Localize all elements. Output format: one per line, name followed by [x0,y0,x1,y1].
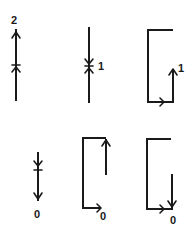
label-0: 0 [100,210,106,222]
diagram-canvas: 2 1 1 0 0 0 [0,0,191,231]
loop-path [148,30,173,102]
panel-bottom-middle: 0 [83,138,110,222]
panel-top-right: 1 [148,30,184,106]
label-0: 0 [34,208,40,220]
panel-bottom-right: 0 [147,139,176,226]
label-1: 1 [98,60,104,72]
panel-top-left: 2 [11,14,20,100]
loop-path [83,138,105,208]
loop-path [147,139,172,209]
label-1: 1 [178,62,184,74]
panel-bottom-left: 0 [34,153,42,220]
panel-top-middle: 1 [85,28,104,102]
label-2: 2 [11,14,17,26]
label-0: 0 [170,214,176,226]
